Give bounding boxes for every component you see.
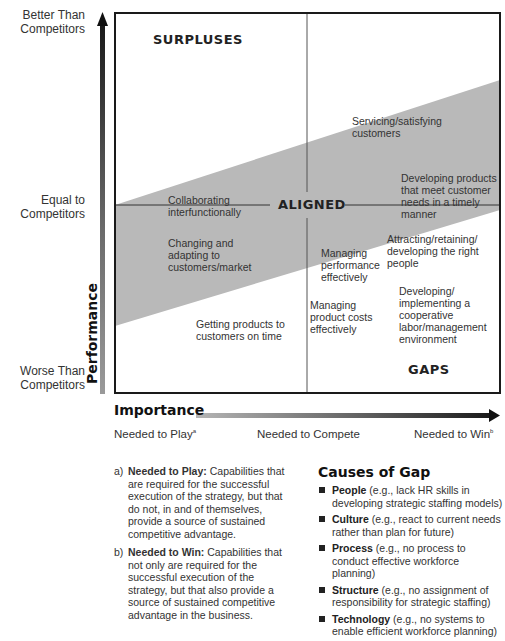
bullet-square-icon [319, 616, 325, 622]
item-line: Developing products [401, 172, 497, 184]
causes-of-gap: Causes of Gap People (e.g., lack HR skil… [318, 464, 503, 641]
item-line: Changing and [168, 237, 251, 249]
region-aligned: ALIGNED [278, 197, 346, 212]
cause-technology: Technology (e.g., no systems to enable e… [318, 613, 503, 638]
footnote-b: b) Needed to Win: Capabilities that not … [114, 546, 294, 621]
bullet-square-icon [319, 487, 325, 493]
x-tick-label: Needed to Compete [257, 428, 360, 440]
item-line: effectively [321, 271, 380, 283]
item-developing-products: Developing products that meet customer n… [401, 172, 497, 220]
cause-term: People [332, 484, 366, 496]
causes-title: Causes of Gap [318, 464, 503, 480]
cause-process: Process (e.g., no process to conduct eff… [318, 542, 503, 580]
bullet-square-icon [319, 516, 325, 522]
item-line: performance [321, 259, 380, 271]
item-managing-costs: Managing product costs effectively [310, 299, 372, 335]
item-line: needs in a timely [401, 196, 497, 208]
bullet-square-icon [319, 587, 325, 593]
cause-culture: Culture (e.g., react to current needs ra… [318, 513, 503, 538]
x-tick-label: Needed to Play [114, 428, 193, 440]
region-gaps: GAPS [408, 362, 450, 377]
y-axis-title: Performance [84, 283, 100, 384]
item-line: interfunctionally [168, 206, 241, 218]
cause-term: Structure [332, 584, 379, 596]
cause-structure: Structure (e.g., no assignment of respon… [318, 584, 503, 609]
item-line: implementing a [399, 297, 487, 309]
performance-arrow-shaft [100, 24, 105, 394]
item-attracting: Attracting/retaining/ developing the rig… [387, 233, 479, 269]
region-surpluses: SURPLUSES [153, 32, 243, 47]
footnote-marker: b [490, 428, 493, 434]
item-line: people [387, 257, 479, 269]
x-tick-win: Needed to Winb [414, 428, 493, 440]
item-line: Managing [310, 299, 372, 311]
item-line: developing the right [387, 245, 479, 257]
item-line: product costs [310, 311, 372, 323]
cause-term: Process [332, 542, 373, 554]
footnote-a: a) Needed to Play: Capabilities that are… [114, 465, 294, 540]
cause-term: Culture [332, 513, 369, 525]
item-line: labor/management [399, 321, 487, 333]
item-line: Collaborating [168, 194, 241, 206]
item-getting-products: Getting products to customers on time [196, 318, 285, 342]
cause-people: People (e.g., lack HR skills in developi… [318, 484, 503, 509]
bullet-square-icon [319, 545, 325, 551]
footnote-marker: a [193, 428, 196, 434]
x-tick-play: Needed to Playa [114, 428, 196, 440]
item-changing: Changing and adapting to customers/marke… [168, 237, 251, 273]
importance-arrow-head [489, 409, 500, 422]
x-tick-compete: Needed to Compete [257, 428, 360, 440]
item-collaborating: Collaborating interfunctionally [168, 194, 241, 218]
item-line: effectively [310, 323, 372, 335]
item-managing-performance: Managing performance effectively [321, 247, 380, 283]
item-line: Managing [321, 247, 380, 259]
item-line: customers [352, 127, 442, 139]
item-line: Getting products to [196, 318, 285, 330]
item-labor-management: Developing/ implementing a cooperative l… [399, 285, 487, 345]
footnotes: a) Needed to Play: Capabilities that are… [114, 465, 294, 627]
x-tick-label: Needed to Win [414, 428, 490, 440]
importance-arrow-shaft [196, 413, 491, 418]
item-line: manner [401, 208, 497, 220]
performance-arrow-head [97, 12, 108, 26]
footnote-tag: b) [114, 546, 123, 559]
item-line: adapting to [168, 249, 251, 261]
item-line: customers on time [196, 330, 285, 342]
item-line: customers/market [168, 261, 251, 273]
item-line: Attracting/retaining/ [387, 233, 479, 245]
footnote-tag: a) [114, 465, 123, 478]
item-line: Servicing/satisfying [352, 115, 442, 127]
item-line: cooperative [399, 309, 487, 321]
item-line: environment [399, 333, 487, 345]
item-line: Developing/ [399, 285, 487, 297]
item-servicing: Servicing/satisfying customers [352, 115, 442, 139]
footnote-term: Needed to Play: [128, 465, 207, 477]
x-axis-title: Importance [114, 402, 204, 418]
cause-term: Technology [332, 613, 390, 625]
matrix-graphic [0, 0, 505, 460]
item-line: that meet customer [401, 184, 497, 196]
footnote-term: Needed to Win: [128, 546, 204, 558]
